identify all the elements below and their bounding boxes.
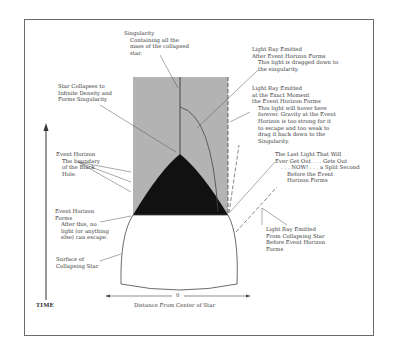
label-star-surface: Surface of Collapsing Star [56, 256, 98, 269]
label-singularity: Singularity Containing all the mass of t… [124, 30, 189, 56]
label-last-light: The Last Light That Will Ever Get Out . … [275, 151, 360, 184]
last-light-ray [229, 145, 239, 213]
distance-arrow-right [246, 295, 251, 298]
time-arrow-head [44, 123, 49, 131]
label-light-exact-moment: Light Ray Emitted at the Exact Moment th… [252, 85, 336, 144]
label-event-horizon: Event Horizon The boundary of the Black … [56, 151, 100, 177]
star-surface [121, 215, 237, 290]
label-event-horizon-forms: Event Horizon Forms After this, no light… [55, 208, 109, 241]
label-light-after-horizon: Light Ray Emitted After Event Horizon Fo… [252, 46, 338, 72]
distance-arrow-left [105, 295, 110, 298]
label-light-before-horizon: Light Ray Emitted From Collapsing Star B… [266, 226, 325, 252]
distance-axis-label: Distance From Center of Star [134, 302, 215, 308]
distance-origin-label: 0 [176, 292, 179, 298]
label-star-collapses: Star Collapses to Infinite Density and F… [58, 83, 112, 103]
time-axis-label: TIME [36, 302, 54, 308]
